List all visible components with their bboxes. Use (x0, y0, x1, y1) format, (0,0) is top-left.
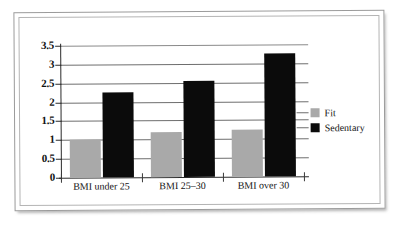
bar-sedentary-1 (183, 81, 215, 177)
y-axis-tick-label: 2.5 (20, 78, 54, 89)
x-axis-separator (304, 172, 305, 181)
y-axis-tick-label: 3 (20, 59, 54, 70)
bar-fit-2 (232, 130, 263, 177)
x-axis-categories: BMI under 25BMI 25–30BMI over 30 (14, 9, 385, 11)
x-axis-category-label: BMI under 25 (61, 180, 142, 191)
legend-gridline-stub (297, 127, 309, 128)
chart-canvas: 00.511.522.533.5 BMI under 25BMI 25–30BM… (14, 9, 386, 210)
legend-swatch-sedentary (311, 123, 320, 132)
legend-item-sedentary: Sedentary (311, 120, 383, 135)
bar-fit-0 (70, 140, 101, 178)
y-axis-tick-label: 0.5 (21, 153, 55, 164)
bars-layer (60, 44, 304, 177)
y-axis-tick-label: 0 (21, 172, 55, 183)
legend-gridline-stub (297, 112, 309, 113)
x-axis-category-label: BMI over 30 (223, 179, 304, 190)
y-axis-labels: 00.511.522.533.5 (14, 11, 55, 210)
bar-fit-1 (151, 132, 182, 177)
y-axis-tick-label: 3.5 (20, 40, 54, 51)
x-axis-category-label: BMI 25–30 (142, 180, 223, 191)
gridlines (14, 9, 385, 11)
bar-sedentary-2 (264, 53, 296, 176)
legend-label: Fit (325, 107, 336, 118)
y-axis-tick-label: 2 (20, 97, 54, 108)
legend-swatch-fit (311, 108, 320, 117)
y-axis-tick-label: 1.5 (21, 115, 55, 126)
y-axis-ticks (14, 9, 385, 11)
bar-sedentary-0 (102, 92, 134, 177)
legend-label: Sedentary (325, 122, 365, 133)
chart-figure: 00.511.522.533.5 BMI under 25BMI 25–30BM… (0, 0, 401, 227)
y-axis-tick-label: 1 (21, 134, 55, 145)
chart-legend: FitSedentary (311, 105, 383, 135)
legend-item-fit: Fit (311, 105, 383, 120)
